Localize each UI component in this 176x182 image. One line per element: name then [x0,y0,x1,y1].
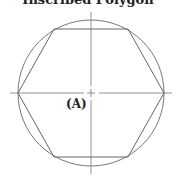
center-label: (A) [66,97,87,111]
inscribed-hexagon-diagram [0,0,176,182]
